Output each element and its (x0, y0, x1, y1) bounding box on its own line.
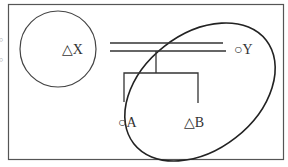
diagram-frame (9, 5, 284, 160)
branch-bracket (124, 73, 198, 103)
label-x: △X (62, 42, 83, 57)
ellipse-region (98, 0, 288, 167)
edge-mark-2: ○ (0, 56, 3, 64)
label-y: ○Y (234, 42, 253, 57)
label-b: △B (184, 115, 204, 130)
edge-mark-1: ○ (0, 36, 3, 44)
circle-region (20, 11, 96, 87)
diagram-canvas: ○ ○ △X ○Y ○A △B (0, 0, 288, 167)
label-a: ○A (118, 115, 137, 130)
